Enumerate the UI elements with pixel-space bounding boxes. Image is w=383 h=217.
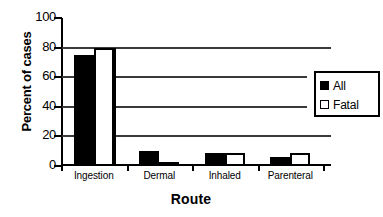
bar-dermal-all [139, 151, 159, 166]
bar-chart-figure: Percent of cases 020406080100 Route AllF… [0, 0, 383, 217]
x-tick-label-parenteral: Parenteral [258, 170, 324, 181]
legend-item-all: All [320, 76, 378, 95]
plot-area [61, 18, 323, 166]
y-tick-mark [54, 135, 62, 137]
bar-dermal-fatal [159, 162, 179, 166]
legend-label: All [333, 80, 346, 92]
bar-parenteral-all [270, 157, 290, 166]
bar-parenteral-fatal [290, 153, 310, 166]
bar-inhaled-all [205, 153, 225, 166]
legend-label: Fatal [333, 99, 359, 111]
open-square-icon [320, 100, 329, 109]
x-tick-label-ingestion: Ingestion [61, 170, 127, 181]
y-tick-label: 40 [22, 101, 56, 111]
y-tick-label: 80 [22, 42, 56, 52]
y-tick-mark [54, 76, 62, 78]
x-axis-title: Route [60, 191, 322, 207]
x-tick-mark [323, 166, 325, 171]
y-tick-label: 20 [22, 130, 56, 140]
y-tick-label: 0 [22, 160, 56, 170]
x-tick-mark [61, 166, 63, 171]
chart-legend: AllFatal [314, 71, 380, 117]
x-tick-label-inhaled: Inhaled [192, 170, 258, 181]
bar-inhaled-fatal [225, 153, 245, 166]
x-tick-label-dermal: Dermal [127, 170, 193, 181]
y-axis-tick-labels: 020406080100 [22, 0, 56, 217]
y-tick-label: 100 [22, 12, 56, 22]
legend-item-fatal: Fatal [320, 95, 378, 114]
filled-square-icon [320, 81, 329, 90]
bar-ingestion-fatal [94, 48, 114, 166]
y-tick-mark [54, 47, 62, 49]
y-tick-mark [54, 17, 62, 19]
bar-ingestion-all [74, 55, 94, 166]
y-tick-label: 60 [22, 71, 56, 81]
group-divider [114, 48, 116, 166]
y-tick-mark [54, 106, 62, 108]
